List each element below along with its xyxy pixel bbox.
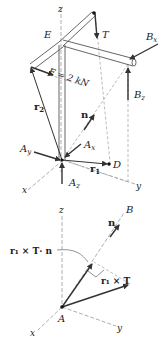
n-label: n	[81, 109, 89, 120]
point-a	[60, 158, 63, 161]
bottom-y-label: y	[116, 323, 123, 333]
force-az-label: Az	[68, 177, 80, 190]
force-ay-label: Ay	[19, 143, 32, 156]
x-axis	[28, 160, 63, 190]
diagram-canvas: z x y T E Bx Bz	[0, 0, 168, 340]
bottom-figure: z x y B n r₁ × T r₁ × T· n A	[10, 204, 133, 338]
bottom-x-label: x	[30, 328, 35, 338]
pipe-e-to-top	[59, 12, 96, 46]
point-d	[107, 162, 111, 166]
point-e-label: E	[43, 29, 52, 40]
force-t-arrow	[95, 14, 97, 38]
r1-label: r1	[90, 163, 100, 176]
force-ay-arrow	[34, 152, 60, 160]
r1xT-vector	[62, 285, 128, 307]
force-ax-arrow	[65, 144, 81, 157]
pipe-end-b	[132, 59, 136, 66]
bottom-point-a-label: A	[57, 313, 65, 324]
force-bx-arrow	[130, 44, 158, 59]
force-t-label: T	[102, 29, 110, 40]
r2-vector	[31, 68, 62, 160]
pipe-e-to-left	[30, 42, 63, 69]
vertical-pipe	[59, 45, 65, 160]
point-d-label: D	[112, 159, 121, 170]
force-ax-label: Ax	[83, 139, 95, 152]
x-axis-label: x	[22, 185, 27, 195]
bottom-n-label: n	[108, 217, 116, 228]
force-bx-label: Bx	[145, 31, 157, 44]
y-axis-label: y	[135, 181, 142, 191]
force-bz-label: Bz	[133, 89, 145, 102]
r1xT-label: r₁ × T	[101, 276, 130, 286]
force-f-label: F = 2 kN	[46, 66, 91, 89]
point-b-label: B	[125, 204, 133, 215]
r1xTn-label: r₁ × T· n	[10, 246, 52, 256]
top-figure: z x y T E Bx Bz	[19, 4, 158, 195]
bottom-y-axis	[62, 307, 116, 326]
z-axis-label: z	[57, 4, 63, 14]
bottom-point-a	[60, 305, 64, 309]
bottom-z-label: z	[58, 205, 64, 215]
projection-vector	[62, 264, 92, 307]
